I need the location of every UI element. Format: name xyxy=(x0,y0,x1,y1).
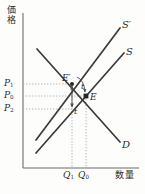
quantity-tick-q0-sub: 0 xyxy=(85,174,89,180)
point-label-equilibrium-new-prime: ′ xyxy=(69,73,71,83)
curve-label-supply-shifted-text: S xyxy=(122,19,129,30)
price-tick-p2-sub: 2 xyxy=(10,107,14,113)
x-axis-label: 数量 xyxy=(115,171,135,180)
quantity-tick-q1: Q1 xyxy=(63,171,74,181)
curve-label-supply-shifted-prime: ′ xyxy=(129,19,131,30)
supply-demand-tax-diagram: 価格 数量 P1 P0 P2 Q1 Q0 S′ S D E′ E t t xyxy=(0,0,145,194)
annotation-tax-lower: t xyxy=(74,108,77,116)
price-tick-p0-sub: 0 xyxy=(10,94,14,100)
curve-demand xyxy=(37,49,120,142)
curve-label-supply-shifted: S′ xyxy=(122,20,131,30)
price-tick-p0: P0 xyxy=(4,91,14,101)
curve-supply-shifted xyxy=(36,28,120,140)
point-label-equilibrium-original-text: E xyxy=(90,92,97,102)
point-label-equilibrium-new: E′ xyxy=(62,74,71,83)
guide-lines xyxy=(23,84,86,168)
point-equilibrium-original xyxy=(84,94,89,99)
price-tick-p2: P2 xyxy=(4,104,14,114)
curve-label-supply: S xyxy=(126,47,133,57)
curve-supply xyxy=(36,53,124,153)
y-axis-label: 価格 xyxy=(3,5,15,25)
curve-label-demand: D xyxy=(122,140,130,150)
curve-label-supply-text: S xyxy=(126,46,133,57)
curve-label-demand-text: D xyxy=(122,139,130,150)
price-tick-p1-sub: 1 xyxy=(10,82,14,88)
quantity-tick-q0: Q0 xyxy=(78,171,89,181)
point-label-equilibrium-new-text: E xyxy=(62,73,69,83)
annotation-tax-upper: t xyxy=(81,83,84,91)
point-label-equilibrium-original: E xyxy=(90,93,97,102)
quantity-tick-q1-sub: 1 xyxy=(70,174,74,180)
price-tick-p1: P1 xyxy=(4,79,14,89)
